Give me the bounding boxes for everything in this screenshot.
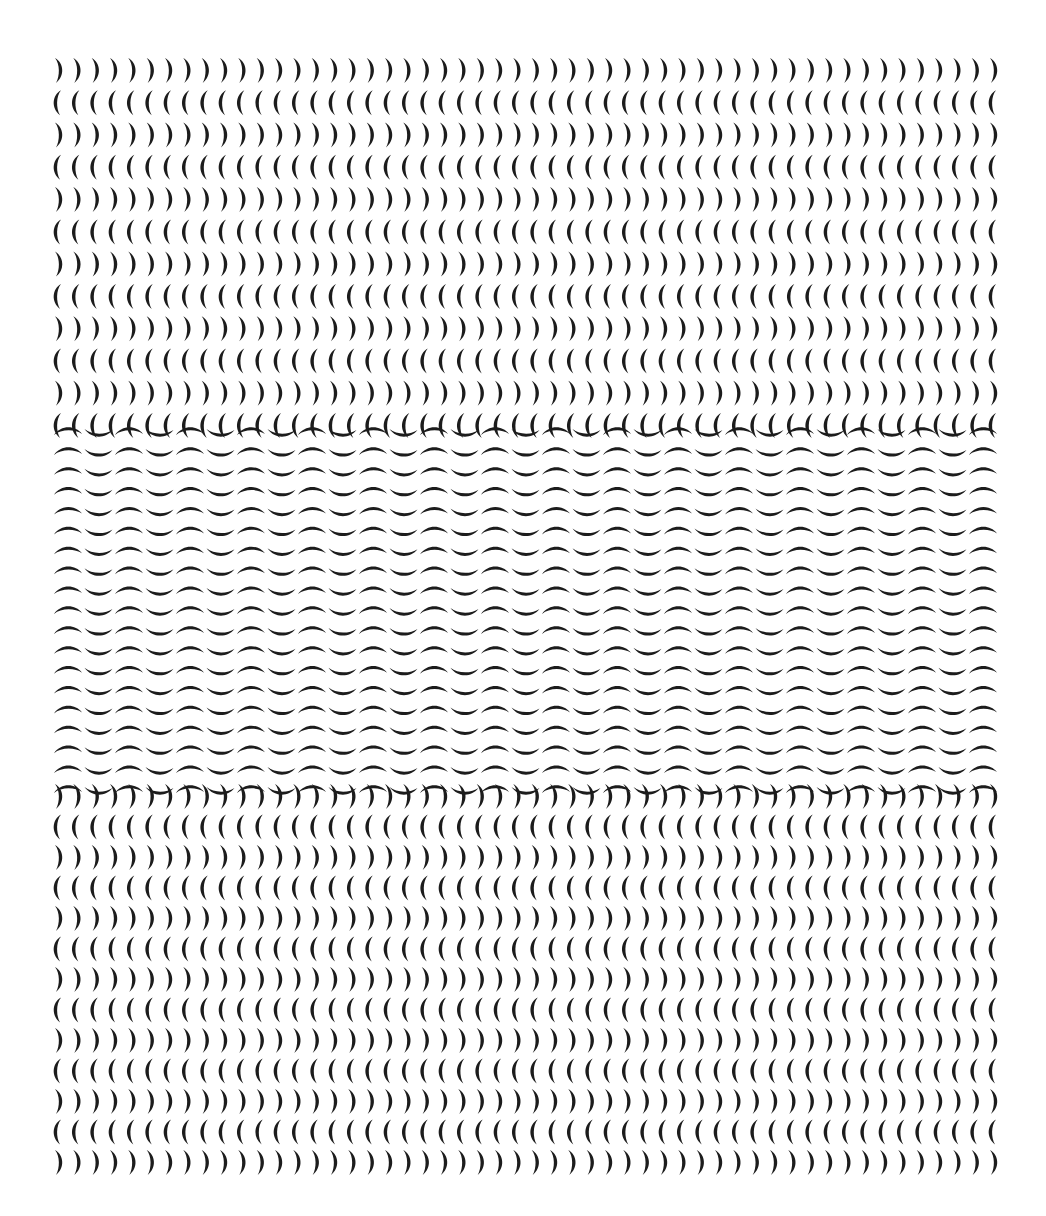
top-band (54, 58, 998, 438)
crescent-pattern-artwork (0, 0, 1046, 1216)
bottom-band (54, 784, 998, 1175)
middle-band (54, 427, 997, 794)
